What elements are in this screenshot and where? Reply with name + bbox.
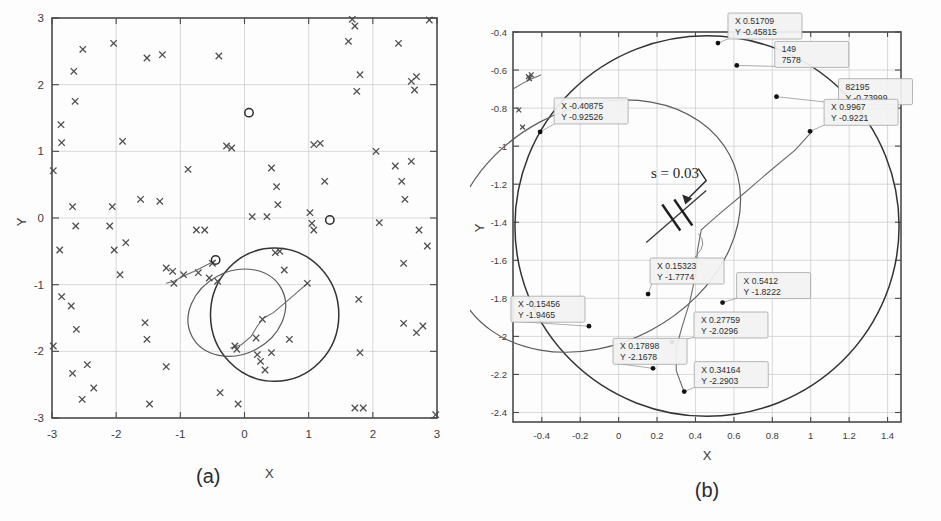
marker-x	[144, 336, 150, 342]
datacursor[interactable]: X 0.9967Y -0.9221	[808, 99, 898, 133]
marker-x	[420, 323, 426, 329]
ytick-label: -2.2	[491, 369, 507, 380]
ytick-label: -2	[34, 345, 44, 357]
xtick-label: 1.2	[843, 430, 856, 441]
marker-x	[275, 201, 281, 207]
datacursor[interactable]: X 0.15323Y -1.7774	[646, 258, 724, 296]
marker-x	[268, 165, 274, 171]
xtick-label: 1	[808, 430, 813, 441]
marker-x	[50, 167, 56, 173]
marker-x	[107, 223, 113, 229]
trajectory-lower	[230, 283, 307, 348]
xtick-label: 3	[434, 428, 440, 440]
xtick-label: 2	[370, 428, 376, 440]
marker-x	[352, 405, 358, 411]
panel-b-ylabel: Y	[472, 223, 487, 232]
datacursor-point	[774, 94, 779, 99]
datacursor-leader	[810, 124, 826, 131]
marker-x	[402, 196, 408, 202]
panel-b-xlabel: X	[703, 448, 712, 463]
marker-x	[235, 401, 241, 407]
marker-x	[413, 329, 419, 335]
datacursor-y-text: Y -1.8222	[744, 287, 781, 297]
marker-x	[157, 198, 163, 204]
ytick-label: 1	[38, 145, 44, 157]
datacursor-point	[716, 41, 721, 46]
datacursor[interactable]: X 0.34164Y -2.2903	[682, 362, 768, 394]
marker-x	[169, 268, 175, 274]
marker-x	[253, 335, 259, 341]
marker-x	[408, 158, 414, 164]
xtick-label: 0	[616, 430, 621, 441]
ytick-label: 0	[38, 212, 44, 224]
marker-x	[272, 249, 278, 255]
panel-b-tick-labels: -0.4-0.200.20.40.60.811.21.4-0.4-0.6-0.8…	[491, 27, 895, 442]
marker-x	[281, 267, 287, 273]
datacursor[interactable]: X -0.15456Y -1.9465	[511, 296, 591, 328]
datacursor-x-text: 149	[782, 44, 797, 54]
marker-x	[58, 121, 64, 127]
datacursor-point	[734, 63, 739, 68]
marker-x	[223, 143, 229, 149]
xtick-label: -3	[47, 428, 57, 440]
panel-a-xlabel: X	[265, 466, 274, 481]
xtick-label: -0.4	[534, 430, 550, 441]
datacursor-x-text: X 0.51709	[735, 16, 774, 26]
marker-x	[309, 220, 315, 226]
datacursor-y-text: 7578	[782, 55, 801, 65]
marker-x	[144, 55, 150, 61]
marker-x	[71, 68, 77, 74]
marker-x	[91, 385, 97, 391]
ytick-label: 3	[38, 12, 44, 24]
marker-x	[72, 98, 78, 104]
marker-x	[259, 316, 265, 322]
datacursor-y-text: Y -2.2903	[701, 376, 738, 386]
datacursor-y-text: Y -2.0296	[701, 326, 738, 336]
marker-x	[146, 401, 152, 407]
datacursor[interactable]: 1497578	[734, 41, 848, 67]
ytick-label: 2	[38, 79, 44, 91]
xtick-label: 0.2	[650, 430, 663, 441]
datacursor-x-text: X 0.17898	[620, 341, 659, 351]
marker-x	[50, 343, 56, 349]
marker-x	[399, 178, 405, 184]
s-tick-axis	[646, 191, 706, 243]
datacursor-point	[538, 130, 543, 135]
s-tick-mark-2	[674, 200, 692, 226]
marker-x	[137, 196, 143, 202]
marker-x	[84, 361, 90, 367]
marker-x	[193, 227, 199, 233]
ytick-label: -0.6	[491, 65, 507, 76]
marker-x	[411, 87, 417, 93]
marker-x	[400, 320, 406, 326]
marker-x	[117, 271, 123, 277]
marker-x	[185, 166, 191, 172]
marker-x	[413, 73, 419, 79]
marker-x	[392, 163, 398, 169]
panel-b-svg: -0.4-0.200.20.40.60.811.21.4-0.4-0.6-0.8…	[470, 0, 941, 521]
datacursor-x-text: X 0.27759	[701, 315, 740, 325]
marker-x	[356, 296, 362, 302]
marker-x	[58, 293, 64, 299]
datacursor-x-text: X -0.40875	[561, 101, 603, 111]
estimate-circle	[210, 248, 338, 381]
marker-x	[349, 16, 355, 22]
marker-x	[273, 183, 279, 189]
datacursor-x-text: X 0.15323	[657, 261, 696, 271]
marker-x	[142, 319, 148, 325]
datacursor-leader	[737, 65, 777, 66]
marker-x	[311, 227, 317, 233]
marker-x	[354, 88, 360, 94]
panel-a: -3-2-101233210-1-2-3 Y X (a)	[0, 0, 470, 521]
marker-x	[307, 209, 313, 215]
estimate-ellipse	[173, 252, 301, 373]
marker-x	[57, 247, 63, 253]
marker-x	[376, 219, 382, 225]
panel-a-caption: (a)	[196, 465, 220, 487]
datacursor-x-text: X 0.34164	[701, 365, 740, 375]
ytick-label: -2.4	[491, 407, 507, 418]
datacursor[interactable]: X 0.51709Y -0.45815	[716, 13, 802, 45]
panel-b-caption: (b)	[695, 479, 719, 501]
marker-x	[317, 140, 323, 146]
panel-a-gridlines	[52, 18, 437, 418]
